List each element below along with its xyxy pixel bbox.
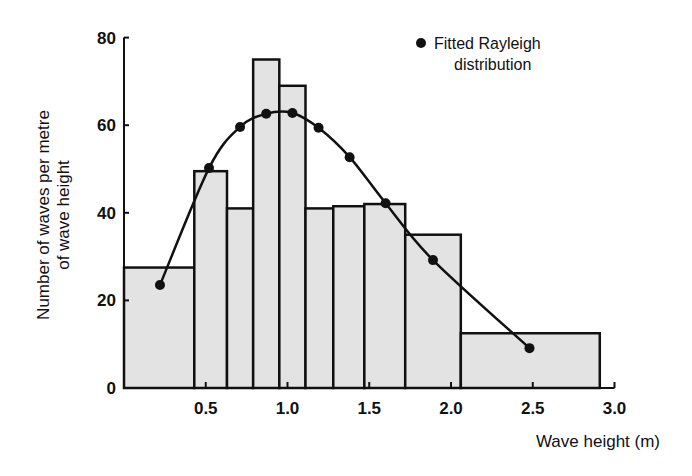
y-axis-title-line2: of wave height [54,160,73,270]
legend-label-line2: distribution [454,56,531,73]
histogram-bar [461,333,600,388]
rayleigh-data-point [155,280,165,290]
rayleigh-data-point [261,109,271,119]
rayleigh-data-point [428,255,438,265]
histogram-bar [279,86,305,388]
legend-label-line1: Fitted Rayleigh [434,35,541,52]
histogram-bar [227,208,253,388]
rayleigh-data-point [204,163,214,173]
histogram-bar [364,204,405,388]
legend: Fitted Rayleighdistribution [416,35,541,73]
x-tick-label: 2.0 [439,399,463,418]
x-tick-label: 1.5 [357,399,381,418]
x-tick-label: 1.0 [276,399,300,418]
x-tick-label: 2.5 [521,399,545,418]
rayleigh-data-point [381,198,391,208]
x-tick-label: 0.5 [194,399,218,418]
rayleigh-data-point [524,343,534,353]
legend-marker-icon [416,38,426,48]
rayleigh-data-point [287,108,297,118]
histogram-bars [124,60,600,389]
histogram-bar [253,60,279,389]
rayleigh-data-point [235,122,245,132]
rayleigh-data-point [345,152,355,162]
x-axis-title: Wave height (m) [536,432,660,451]
y-tick-label: 0 [107,379,116,398]
rayleigh-histogram-chart: 0204060800.51.01.52.02.53.0 Fitted Rayle… [0,0,692,476]
y-tick-label: 80 [97,29,116,48]
histogram-bar [333,206,364,388]
histogram-bar [305,208,333,388]
rayleigh-data-point [314,123,324,133]
x-tick-label: 3.0 [603,399,627,418]
y-axis-title-line1: Number of waves per metre [34,110,53,320]
y-tick-label: 40 [97,204,116,223]
y-tick-label: 60 [97,116,116,135]
histogram-bar [194,171,227,388]
y-tick-label: 20 [97,291,116,310]
